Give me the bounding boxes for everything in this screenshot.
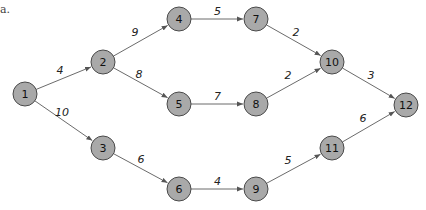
edge-weight-label: 5 xyxy=(285,154,292,167)
node-1: 1 xyxy=(13,82,37,106)
node-label: 11 xyxy=(325,142,339,155)
node-8: 8 xyxy=(244,92,268,116)
edge-weight-label: 4 xyxy=(57,64,64,77)
node-2: 2 xyxy=(91,50,115,74)
node-4: 4 xyxy=(167,7,191,31)
node-label: 9 xyxy=(253,183,260,196)
edge-11-12 xyxy=(342,112,394,142)
node-11: 11 xyxy=(320,136,344,160)
edge-weight-label: 6 xyxy=(138,153,145,166)
edge-weight-label: 2 xyxy=(285,69,292,82)
node-label: 12 xyxy=(399,99,413,112)
node-7: 7 xyxy=(244,7,268,31)
node-12: 12 xyxy=(394,93,418,117)
node-label: 1 xyxy=(22,88,29,101)
edge-weight-label: 4 xyxy=(214,175,221,188)
edge-9-11 xyxy=(267,154,321,183)
node-label: 2 xyxy=(100,56,107,69)
node-label: 3 xyxy=(100,142,107,155)
node-label: 6 xyxy=(176,183,183,196)
edge-weight-label: 2 xyxy=(293,26,300,39)
edge-weight-label: 10 xyxy=(55,106,69,119)
node-label: 10 xyxy=(325,56,339,69)
node-label: 7 xyxy=(253,13,260,26)
edge-weight-label: 6 xyxy=(360,112,367,125)
node-label: 8 xyxy=(253,98,260,111)
node-5: 5 xyxy=(167,92,191,116)
node-label: 4 xyxy=(176,13,183,26)
edge-weight-label: 8 xyxy=(136,68,143,81)
edge-weight-label: 7 xyxy=(214,90,221,103)
node-label: 5 xyxy=(176,98,183,111)
node-6: 6 xyxy=(167,177,191,201)
edges-layer xyxy=(35,19,395,189)
edge-8-10 xyxy=(267,68,321,98)
edge-weight-label: 9 xyxy=(132,26,139,39)
node-9: 9 xyxy=(244,177,268,201)
edge-2-4 xyxy=(113,25,167,56)
edge-weight-label: 5 xyxy=(214,5,221,18)
node-10: 10 xyxy=(320,50,344,74)
edge-1-2 xyxy=(36,67,91,90)
node-3: 3 xyxy=(91,136,115,160)
edge-weight-label: 3 xyxy=(368,69,375,82)
network-diagram: 41098657422536 123456789101112 xyxy=(0,0,426,210)
